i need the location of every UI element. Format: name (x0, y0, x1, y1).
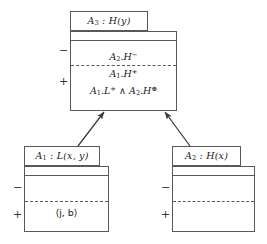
agent-box-a3-title: A3 : H(y) (87, 15, 130, 27)
agent-box-a1-positive-line-1: ⟨j, b⟩ (24, 207, 109, 218)
agent-box-a2-positive-marker: + (161, 209, 170, 220)
agent-box-a2-divider (173, 201, 254, 202)
agent-box-a1-divider (25, 201, 108, 202)
arrow-right-to-top (165, 112, 190, 146)
agent-box-a3-strip (71, 32, 176, 41)
agent-box-a3-positive-line-2: A1.L+ ∧ A2.H⊕ (70, 85, 177, 97)
agent-interaction-diagram: A3 : H(y) − + A2.H− A1.H+ A1.L+ ∧ A2.H⊕ … (0, 0, 267, 244)
agent-box-a1-positive-marker: + (13, 209, 22, 220)
agent-box-a1-title: A1 : L(x, y) (35, 150, 88, 162)
agent-box-a2-title: A2 : H(x) (185, 150, 228, 162)
agent-box-a3-negative-line-1: A2.H− (70, 51, 177, 63)
agent-box-a2-body (172, 166, 255, 232)
agent-box-a2-title-tab: A2 : H(x) (172, 146, 241, 166)
agent-box-a3-positive-marker: + (59, 76, 68, 87)
agent-box-a2-negative-marker: − (161, 182, 170, 193)
agent-box-a1-body (24, 166, 109, 232)
agent-box-a1-negative-marker: − (13, 182, 22, 193)
agent-box-a3-title-tab: A3 : H(y) (70, 11, 148, 31)
agent-box-a2-strip (173, 167, 254, 176)
agent-box-a3-positive-line-1: A1.H+ (70, 68, 177, 80)
agent-box-a1-title-tab: A1 : L(x, y) (24, 146, 100, 166)
agent-box-a1-strip (25, 167, 108, 176)
agent-box-a3-negative-marker: − (59, 45, 68, 56)
agent-box-a3-divider (71, 65, 176, 66)
arrow-left-to-top (78, 112, 104, 146)
